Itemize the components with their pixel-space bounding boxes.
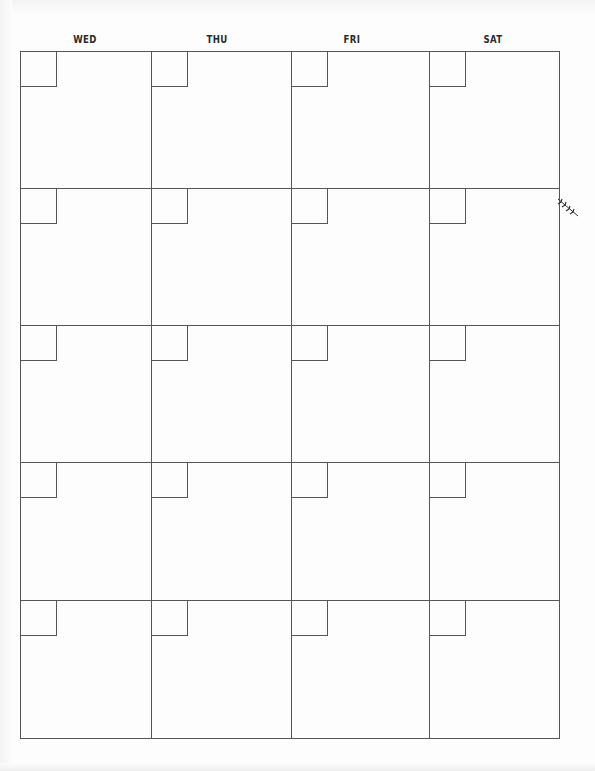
date-number-box[interactable]	[152, 326, 188, 361]
day-header-wed: WED	[62, 33, 109, 46]
date-number-box[interactable]	[152, 463, 188, 498]
date-number-box[interactable]	[21, 463, 57, 498]
grid-line	[559, 51, 560, 739]
day-cell[interactable]	[152, 52, 291, 188]
day-cell[interactable]	[430, 189, 559, 325]
day-cell[interactable]	[21, 601, 151, 738]
day-cell[interactable]	[152, 189, 291, 325]
date-number-box[interactable]	[152, 52, 188, 87]
day-cell[interactable]	[292, 601, 429, 738]
date-number-box[interactable]	[21, 326, 57, 361]
page-shadow-top	[0, 0, 595, 14]
day-cell[interactable]	[292, 326, 429, 462]
leaf-sprig-icon	[556, 196, 582, 222]
date-number-box[interactable]	[430, 463, 466, 498]
day-cell[interactable]	[152, 463, 291, 600]
day-cell[interactable]	[292, 189, 429, 325]
date-number-box[interactable]	[292, 463, 328, 498]
day-cell[interactable]	[21, 463, 151, 600]
date-number-box[interactable]	[152, 601, 188, 636]
date-number-box[interactable]	[292, 326, 328, 361]
date-number-box[interactable]	[292, 601, 328, 636]
date-number-box[interactable]	[21, 601, 57, 636]
day-header-fri: FRI	[329, 33, 376, 46]
day-cell[interactable]	[430, 601, 559, 738]
day-header-thu: THU	[194, 33, 241, 46]
date-number-box[interactable]	[430, 52, 466, 87]
date-number-box[interactable]	[152, 189, 188, 224]
date-number-box[interactable]	[430, 189, 466, 224]
day-cell[interactable]	[21, 326, 151, 462]
day-cell[interactable]	[430, 326, 559, 462]
day-cell[interactable]	[152, 601, 291, 738]
day-cell[interactable]	[430, 52, 559, 188]
date-number-box[interactable]	[430, 601, 466, 636]
date-number-box[interactable]	[430, 326, 466, 361]
day-cell[interactable]	[21, 189, 151, 325]
day-cell[interactable]	[292, 52, 429, 188]
day-cell[interactable]	[152, 326, 291, 462]
calendar-grid	[20, 51, 560, 739]
date-number-box[interactable]	[21, 52, 57, 87]
day-header-sat: SAT	[470, 33, 517, 46]
grid-line	[20, 738, 560, 739]
day-cell[interactable]	[430, 463, 559, 600]
date-number-box[interactable]	[292, 189, 328, 224]
date-number-box[interactable]	[292, 52, 328, 87]
date-number-box[interactable]	[21, 189, 57, 224]
page-shadow-bottom	[0, 763, 595, 771]
day-cell[interactable]	[292, 463, 429, 600]
page-shadow-left	[0, 0, 12, 771]
day-cell[interactable]	[21, 52, 151, 188]
